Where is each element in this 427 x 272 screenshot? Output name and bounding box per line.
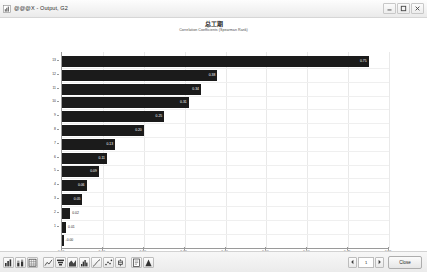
y-axis-labels: 13121110987654321 xyxy=(0,52,59,248)
y-axis-tick xyxy=(57,143,59,144)
bar-row[interactable]: 0.13 xyxy=(62,137,115,152)
bar-row-negative[interactable]: -0.00 xyxy=(62,233,64,248)
bar-row[interactable]: 0.34 xyxy=(62,82,201,97)
bar-row[interactable]: 0.06 xyxy=(62,178,87,193)
bar[interactable]: 0.05 xyxy=(62,194,82,205)
y-axis-tick xyxy=(57,60,59,61)
bar-row[interactable]: 0.09 xyxy=(62,164,99,179)
y-axis-tick-label: 9 xyxy=(54,113,56,118)
close-window-button[interactable] xyxy=(411,3,424,14)
y-axis-tick xyxy=(57,115,59,116)
bar-row[interactable]: 0.38 xyxy=(62,68,217,83)
bar-chart-icon[interactable] xyxy=(3,257,14,268)
y-axis-tick-label: 4 xyxy=(54,182,56,187)
output-window: @@@X - Output, G2 总工期 Correlation Coe xyxy=(0,0,427,272)
bar-value-label: 0.09 xyxy=(90,169,99,174)
y-axis-tick xyxy=(57,226,59,227)
y-axis-tick-label: 5 xyxy=(54,168,56,173)
chart-window-icon xyxy=(3,5,11,13)
cumulative-curve-icon[interactable] xyxy=(91,257,102,268)
y-axis-tick xyxy=(57,184,59,185)
bar[interactable]: 0.20 xyxy=(62,125,144,136)
bar-value-label: -0.00 xyxy=(66,238,74,243)
bar[interactable]: 0.06 xyxy=(62,180,87,191)
bar-value-label: 0.01 xyxy=(68,225,75,230)
bar-row[interactable]: 0.75 xyxy=(62,54,369,69)
y-axis-tick-label: 10 xyxy=(52,99,56,104)
bar[interactable]: 0.38 xyxy=(62,70,217,81)
chart-type-toolbar xyxy=(3,257,154,268)
bar-row[interactable]: 0.25 xyxy=(62,109,164,124)
line-chart-icon[interactable] xyxy=(43,257,54,268)
y-axis-tick xyxy=(57,129,59,130)
bar-row[interactable]: 0.01 xyxy=(62,220,66,235)
bar-value-label: 0.20 xyxy=(135,128,144,133)
bar-row[interactable]: 0.02 xyxy=(62,206,70,221)
chart-subtitle: Correlation Coefficients (Spearman Rank) xyxy=(0,28,427,33)
bar[interactable]: 0.34 xyxy=(62,84,201,95)
grid-table-icon[interactable] xyxy=(27,257,38,268)
y-axis-tick xyxy=(57,101,59,102)
y-axis-tick-label: 13 xyxy=(52,58,56,63)
window-controls xyxy=(383,3,424,14)
bar-row[interactable]: 0.20 xyxy=(62,123,144,138)
bar-row[interactable]: 0.11 xyxy=(62,151,107,166)
bar-value-label: 0.11 xyxy=(99,156,107,161)
bottom-toolbar: 1 Close xyxy=(0,251,427,272)
bar-value-label: 0.05 xyxy=(74,197,83,202)
y-axis-tick-label: 3 xyxy=(54,196,56,201)
y-axis-tick xyxy=(57,212,59,213)
page-number-field[interactable]: 1 xyxy=(358,257,374,268)
bar-negative[interactable]: -0.00 xyxy=(62,235,64,246)
maximize-button[interactable] xyxy=(397,3,410,14)
chart-canvas: 总工期 Correlation Coefficients (Spearman R… xyxy=(0,18,427,251)
bar[interactable]: 0.11 xyxy=(62,153,107,164)
bar[interactable]: 0.25 xyxy=(62,111,164,122)
bar[interactable]: 0.02 xyxy=(62,208,70,219)
tornado-chart-icon[interactable] xyxy=(55,257,66,268)
bar-value-label: 0.06 xyxy=(78,183,87,188)
y-axis-tick xyxy=(57,157,59,158)
bar[interactable]: 0.09 xyxy=(62,166,99,177)
area-chart-icon[interactable] xyxy=(67,257,78,268)
minimize-button[interactable] xyxy=(383,3,396,14)
window-title: @@@X - Output, G2 xyxy=(14,4,68,13)
y-axis-tick xyxy=(57,74,59,75)
text-report-icon[interactable] xyxy=(131,257,142,268)
chart-title: 总工期 xyxy=(0,20,427,28)
bar-value-label: 0.38 xyxy=(209,73,218,78)
histogram-icon[interactable] xyxy=(79,257,90,268)
y-axis-tick xyxy=(57,198,59,199)
y-axis-tick-label: 2 xyxy=(54,210,56,215)
bar-value-label: 0.75 xyxy=(360,59,369,64)
bar-value-label: 0.31 xyxy=(180,100,189,105)
bar[interactable]: 0.75 xyxy=(62,56,369,67)
bar[interactable]: 0.31 xyxy=(62,97,189,108)
bar[interactable]: 0.13 xyxy=(62,139,115,150)
scatter-plot-icon[interactable] xyxy=(103,257,114,268)
close-button[interactable]: Close xyxy=(388,256,422,269)
stacked-bar-icon[interactable] xyxy=(15,257,26,268)
y-axis-tick-label: 8 xyxy=(54,127,56,132)
y-axis-tick-label: 6 xyxy=(54,155,56,160)
window-titlebar: @@@X - Output, G2 xyxy=(0,0,427,18)
page-navigation: 1 xyxy=(348,257,384,268)
plot-region: 0.750.380.340.310.250.200.130.110.090.06… xyxy=(61,52,389,249)
bar-row[interactable]: 0.31 xyxy=(62,95,189,110)
bar-row[interactable]: 0.05 xyxy=(62,192,82,207)
bar-value-label: 0.13 xyxy=(107,142,116,147)
y-axis-tick-label: 11 xyxy=(52,86,56,91)
bar-value-label: 0.25 xyxy=(156,114,165,119)
bar[interactable]: 0.01 xyxy=(62,222,66,233)
box-plot-icon[interactable] xyxy=(115,257,126,268)
next-page-button[interactable] xyxy=(375,257,384,268)
gridline xyxy=(389,52,390,248)
y-axis-tick xyxy=(57,170,59,171)
y-axis-tick-label: 7 xyxy=(54,141,56,146)
summary-icon[interactable] xyxy=(143,257,154,268)
y-axis-tick xyxy=(57,88,59,89)
prev-page-button[interactable] xyxy=(348,257,357,268)
y-axis-tick-label: 1 xyxy=(54,224,56,229)
bar-value-label: 0.02 xyxy=(72,211,79,216)
y-axis-tick-label: 12 xyxy=(52,72,56,77)
